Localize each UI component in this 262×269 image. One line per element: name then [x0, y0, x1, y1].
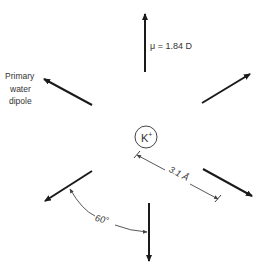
dipole-moment-label: μ = 1.84 D [150, 41, 192, 51]
angle-label: 60° [94, 213, 110, 226]
potassium-hydration-diagram: K+ μ = 1.84 D Primary water dipole 3.1 Å… [0, 0, 262, 269]
distance-label: 3.1 Å [167, 164, 190, 183]
dipole-arrow-lower-left [45, 171, 92, 201]
ion-label: K+ [141, 131, 152, 144]
dipole-arrow-lower-right [203, 169, 252, 196]
dipole-arrow-upper-right [202, 74, 250, 103]
dipole-arrow-upper-left [44, 79, 92, 105]
angle-arc [70, 189, 95, 216]
primary-water-dipole-label: Primary water dipole [5, 71, 37, 106]
